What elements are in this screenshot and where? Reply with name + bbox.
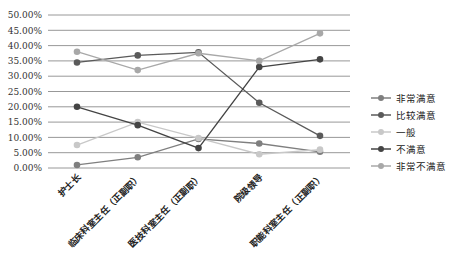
data-point-marker bbox=[195, 135, 202, 142]
data-point-marker bbox=[317, 133, 324, 140]
series-line bbox=[77, 52, 320, 136]
data-point-marker bbox=[74, 48, 81, 55]
y-tick-label: 10.00% bbox=[8, 133, 43, 143]
y-tick-label: 35.00% bbox=[8, 56, 43, 66]
legend-label: 不满意 bbox=[396, 144, 426, 155]
data-point-marker bbox=[134, 122, 141, 129]
legend-marker-icon bbox=[378, 95, 384, 101]
legend-marker-icon bbox=[378, 163, 384, 169]
legend-marker-icon bbox=[378, 146, 384, 152]
x-axis: 护士长临床科室主任（正副职）医技科室主任（正副职）院级领导职能科室主任（正副职） bbox=[56, 171, 326, 249]
data-point-marker bbox=[74, 142, 81, 149]
series-lines bbox=[74, 30, 324, 168]
x-tick-label: 院级领导 bbox=[231, 172, 264, 205]
data-point-marker bbox=[256, 64, 263, 71]
data-point-marker bbox=[256, 58, 263, 65]
y-tick-label: 20.00% bbox=[8, 102, 43, 112]
legend-label: 一般 bbox=[396, 127, 416, 138]
y-tick-label: 5.00% bbox=[13, 148, 42, 158]
y-tick-label: 45.00% bbox=[8, 26, 43, 36]
data-point-marker bbox=[256, 151, 263, 158]
legend-item: 不满意 bbox=[371, 144, 426, 155]
x-tick-label: 护士长 bbox=[56, 171, 84, 199]
legend-item: 非常满意 bbox=[371, 93, 436, 104]
data-point-marker bbox=[134, 67, 141, 74]
data-point-marker bbox=[74, 162, 81, 169]
data-point-marker bbox=[195, 145, 202, 152]
legend-item: 非常不满意 bbox=[371, 161, 446, 172]
y-tick-label: 30.00% bbox=[8, 71, 43, 81]
data-point-marker bbox=[317, 56, 324, 63]
legend: 非常满意比较满意一般不满意非常不满意 bbox=[371, 93, 446, 172]
data-point-marker bbox=[256, 140, 263, 147]
data-point-marker bbox=[256, 100, 263, 107]
data-point-marker bbox=[74, 59, 81, 66]
legend-label: 非常不满意 bbox=[396, 161, 446, 172]
y-tick-label: 25.00% bbox=[8, 87, 43, 97]
y-tick-label: 50.00% bbox=[8, 10, 43, 20]
y-tick-label: 0.00% bbox=[13, 163, 42, 173]
data-point-marker bbox=[195, 50, 202, 57]
legend-item: 一般 bbox=[371, 127, 416, 138]
y-tick-label: 40.00% bbox=[8, 41, 43, 51]
line-chart: 0.00%5.00%10.00%15.00%20.00%25.00%30.00%… bbox=[0, 0, 453, 264]
y-tick-label: 15.00% bbox=[8, 117, 43, 127]
legend-marker-icon bbox=[378, 129, 384, 135]
data-point-marker bbox=[317, 146, 324, 153]
legend-label: 非常满意 bbox=[396, 93, 436, 104]
data-point-marker bbox=[317, 30, 324, 37]
y-axis: 0.00%5.00%10.00%15.00%20.00%25.00%30.00%… bbox=[8, 10, 43, 173]
legend-label: 比较满意 bbox=[396, 110, 436, 121]
legend-marker-icon bbox=[378, 112, 384, 118]
legend-item: 比较满意 bbox=[371, 110, 436, 121]
data-point-marker bbox=[74, 104, 81, 111]
series-4 bbox=[74, 30, 324, 73]
series-2 bbox=[74, 119, 324, 158]
data-point-marker bbox=[134, 154, 141, 161]
data-point-marker bbox=[134, 52, 141, 59]
